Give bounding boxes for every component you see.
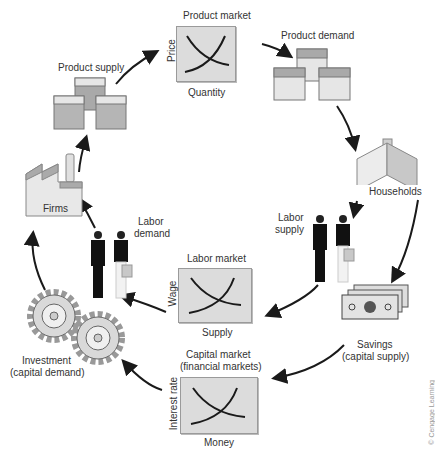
- product-supply-label: Product supply: [58, 62, 124, 74]
- workers-icon: [86, 229, 136, 301]
- product-demand-boxes-icon: [273, 48, 353, 104]
- labor-demand-label-line1: Labor: [138, 216, 164, 228]
- supply-demand-curves-icon: [179, 269, 251, 322]
- labor-supply-label-line2: supply: [275, 224, 304, 236]
- product-market-title: Product market: [183, 10, 251, 22]
- labor-market-x-axis: Supply: [202, 327, 233, 339]
- copyright-notice: © Cengage Learning: [428, 380, 435, 445]
- capital-market-y-axis: Interest rate: [168, 377, 179, 430]
- labor-market-chart: [178, 268, 252, 323]
- capital-market-chart: [180, 377, 258, 434]
- labor-market-title: Labor market: [187, 253, 246, 265]
- firms-label: Firms: [43, 203, 68, 215]
- product-market-x-axis: Quantity: [188, 87, 225, 99]
- capital-market-x-axis: Money: [204, 437, 234, 449]
- savings-label-line1: Savings: [357, 339, 393, 351]
- households-label: Households: [369, 186, 422, 198]
- savings-label-line2: (capital supply): [342, 351, 409, 363]
- workers-icon: [308, 213, 358, 285]
- capital-market-title-line2: (financial markets): [180, 361, 262, 373]
- capital-market-title-line1: Capital market: [186, 349, 250, 361]
- product-supply-boxes-icon: [53, 77, 128, 131]
- supply-demand-curves-icon: [181, 378, 257, 433]
- labor-market-y-axis: Wage: [167, 281, 178, 307]
- labor-demand-label-line2: demand: [134, 228, 170, 240]
- supply-demand-curves-icon: [177, 27, 235, 81]
- house-icon: [354, 137, 420, 185]
- product-market-chart: [176, 26, 236, 82]
- labor-supply-label-line1: Labor: [278, 212, 304, 224]
- dollar-bills-icon: [340, 283, 410, 323]
- investment-label-line2: (capital demand): [10, 367, 84, 379]
- product-market-y-axis: Price: [166, 39, 177, 62]
- product-demand-label: Product demand: [281, 30, 354, 42]
- investment-label-line1: Investment: [22, 355, 71, 367]
